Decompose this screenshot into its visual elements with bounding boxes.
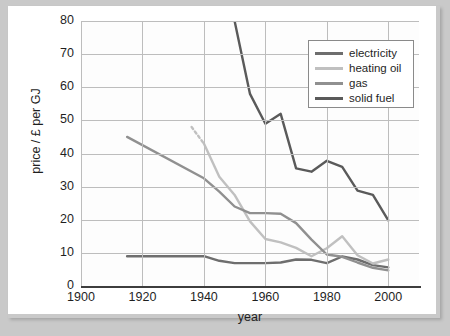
legend-label-heating-oil: heating oil	[349, 61, 401, 75]
gridline-vertical	[81, 21, 82, 286]
gridline-vertical	[265, 21, 266, 286]
legend-swatch-electricity	[315, 52, 343, 55]
x-axis-line	[81, 286, 421, 288]
series-gas	[127, 137, 388, 271]
gridline-horizontal	[81, 220, 419, 221]
gridline-vertical	[204, 21, 205, 286]
x-axis-label: year	[81, 310, 419, 324]
gridline-horizontal	[81, 253, 419, 254]
x-tick-label: 1940	[182, 290, 226, 304]
y-tick-label: 50	[38, 112, 74, 126]
x-tick-label: 1920	[120, 290, 164, 304]
gridline-horizontal	[81, 21, 419, 22]
gridline-horizontal	[81, 187, 419, 188]
legend-label-gas: gas	[349, 76, 368, 90]
legend-label-electricity: electricity	[349, 46, 397, 60]
legend-item-heating-oil: heating oil	[315, 61, 401, 75]
y-axis-label: price / £ per GJ	[29, 56, 43, 206]
legend-swatch-solid-fuel	[315, 97, 343, 100]
y-tick-label: 60	[38, 79, 74, 93]
gridline-horizontal	[81, 154, 419, 155]
legend-swatch-gas	[315, 82, 343, 85]
legend-item-electricity: electricity	[315, 46, 397, 60]
legend: electricity heating oil gas solid fuel	[308, 40, 414, 108]
chart-screenshot: 80706050403020100 1900192019401960198020…	[0, 0, 450, 336]
x-tick-label: 1960	[243, 290, 287, 304]
legend-swatch-heating-oil	[315, 67, 343, 70]
gridline-horizontal	[81, 120, 419, 121]
legend-item-gas: gas	[315, 76, 368, 90]
y-tick-label: 80	[38, 13, 74, 27]
gridline-vertical	[142, 21, 143, 286]
x-tick-label: 2000	[366, 290, 410, 304]
legend-label-solid-fuel: solid fuel	[349, 91, 394, 105]
figure-card: 80706050403020100 1900192019401960198020…	[8, 6, 436, 314]
x-tick-label: 1900	[59, 290, 103, 304]
y-tick-label: 40	[38, 146, 74, 160]
y-tick-label: 10	[38, 245, 74, 259]
series-electricity	[127, 256, 388, 267]
x-tick-label: 1980	[305, 290, 349, 304]
y-tick-label: 70	[38, 46, 74, 60]
y-tick-label: 30	[38, 179, 74, 193]
legend-item-solid-fuel: solid fuel	[315, 91, 394, 105]
y-tick-label: 20	[38, 212, 74, 226]
